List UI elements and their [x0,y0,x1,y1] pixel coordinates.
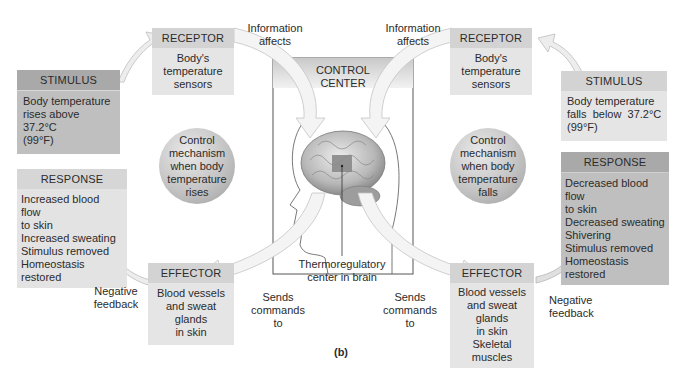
left-receptor-box: RECEPTOR Body's temperature sensors [152,28,234,95]
text-line: Stimulus removed [21,245,121,258]
text-line: Negative [549,294,601,307]
text-line: Negative [90,285,142,298]
text-line: temperature [458,173,517,186]
right-stimulus-box: STIMULUS Body temperature falls below 37… [561,71,667,141]
text-line: sensors [456,78,526,91]
left-stimulus-body: Body temperature rises above 37.2°C (99°… [17,90,120,154]
control-center-title: CONTROL CENTER [273,64,413,90]
thermoregulatory-center-label: Thermoregulatory center in brain [290,258,394,284]
right-stimulus-body: Body temperature falls below 37.2°C (99°… [561,91,667,141]
text-line: Increased blood flow [21,193,121,219]
text-line: falls below 37.2°C [567,108,661,121]
right-control-mechanism-text: Control mechanism when body temperature … [458,134,517,199]
text-line: Homeostasis restored [21,258,121,284]
left-stimulus-box: STIMULUS Body temperature rises above 37… [17,70,120,154]
right-response-header: RESPONSE [561,152,669,172]
control-center-title-line: CONTROL [273,64,413,77]
text-line: commands [243,304,313,317]
text-line: when body [167,160,226,173]
right-effector-box: EFFECTOR Blood vessels and sweat glands … [450,263,534,368]
text-line: commands [375,304,445,317]
text-line: to skin [565,203,667,216]
text-line: rises [167,186,226,199]
text-line: Stimulus removed [565,242,667,255]
text-line: Information [383,22,443,35]
text-line: affects [245,35,305,48]
text-line: falls [458,186,517,199]
left-effector-box: EFFECTOR Blood vessels and sweat glands … [148,263,234,345]
text-line: temperature [167,173,226,186]
right-receptor-header: RECEPTOR [450,28,532,48]
left-control-mechanism-circle: Control mechanism when body temperature … [159,128,235,204]
left-receptor-header: RECEPTOR [152,28,234,48]
right-receptor-body: Body's temperature sensors [450,48,532,95]
text-line: to [375,317,445,330]
text-line: Sends [243,291,313,304]
text-line: Body's [158,52,228,65]
text-line: Sends [375,291,445,304]
text-line: affects [383,35,443,48]
text-line: in skin [452,325,532,338]
right-negative-feedback-label: Negative feedback [549,294,601,320]
left-receptor-body: Body's temperature sensors [152,48,234,95]
text-line: in skin [154,326,228,339]
left-info-affects-label: Information affects [245,22,305,48]
text-line: Control [167,134,226,147]
text-line: when body [458,160,517,173]
right-effector-body: Blood vessels and sweat glands in skin S… [450,283,534,368]
arrow-stimulus-to-receptor-right [538,34,582,74]
text-line: Information [245,22,305,35]
text-line: Decreased sweating [565,216,667,229]
text-line: Blood vessels [154,287,228,300]
text-line: and sweat glands [154,300,228,326]
text-line: feedback [90,298,142,311]
left-response-box: RESPONSE Increased blood flow to skin In… [17,169,127,288]
text-line: Homeostasis restored [565,255,667,281]
right-receptor-box: RECEPTOR Body's temperature sensors [450,28,532,95]
text-line: Skeletal muscles [452,338,532,364]
text-line: rises above 37.2°C [23,108,114,134]
text-line: Control [458,134,517,147]
left-effector-body: Blood vessels and sweat glands in skin [148,283,234,345]
text-line: (99°F) [23,134,114,147]
left-effector-header: EFFECTOR [148,263,234,283]
left-sends-commands-label: Sends commands to [243,291,313,330]
left-response-body: Increased blood flow to skin Increased s… [17,189,127,288]
text-line: feedback [549,307,601,320]
text-line: Blood vessels [452,286,532,299]
right-sends-commands-label: Sends commands to [375,291,445,330]
right-response-body: Decreased blood flow to skin Decreased s… [561,172,669,285]
text-line: temperature [456,65,526,78]
text-line: to skin [21,219,121,232]
text-line: Shivering [565,229,667,242]
text-line: Body temperature [23,95,114,108]
text-line: (99°F) [567,121,661,134]
text-line: and sweat glands [452,299,532,325]
left-control-mechanism-text: Control mechanism when body temperature … [167,134,226,199]
text-line: Body's [456,52,526,65]
right-effector-header: EFFECTOR [450,263,534,283]
left-stimulus-header: STIMULUS [17,70,120,90]
right-control-mechanism-circle: Control mechanism when body temperature … [450,128,526,204]
control-center-title-line: CENTER [273,77,413,90]
text-line: mechanism [458,147,517,160]
thermo-label-line: Thermoregulatory [290,258,394,271]
left-response-header: RESPONSE [17,169,127,189]
text-line: temperature [158,65,228,78]
thermo-label-line: center in brain [290,271,394,284]
text-line: sensors [158,78,228,91]
right-response-box: RESPONSE Decreased blood flow to skin De… [561,152,669,285]
right-info-affects-label: Information affects [383,22,443,48]
right-stimulus-header: STIMULUS [561,71,667,91]
left-negative-feedback-label: Negative feedback [90,285,142,311]
figure-label: (b) [326,346,356,359]
text-line: mechanism [167,147,226,160]
text-line: Decreased blood flow [565,177,667,203]
text-line: to [243,317,313,330]
text-line: Body temperature [567,95,661,108]
text-line: Increased sweating [21,232,121,245]
